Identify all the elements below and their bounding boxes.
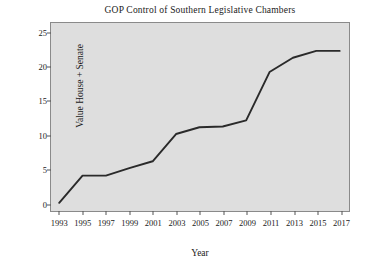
x-axis-label: Year [50, 248, 350, 258]
y-tick-label: 15 [39, 96, 48, 106]
x-tick-mark [318, 211, 319, 215]
plot-area: Value House + Senate 0510152025 19931995… [50, 22, 350, 212]
x-tick-mark [59, 211, 60, 215]
x-tick-mark [200, 211, 201, 215]
x-tick-mark [271, 211, 272, 215]
y-tick-label: 10 [39, 131, 48, 141]
y-tick-label: 20 [39, 62, 48, 72]
x-tick-mark [106, 211, 107, 215]
x-tick-mark [176, 211, 177, 215]
x-tick-mark [223, 211, 224, 215]
x-tick-label: 2005 [192, 218, 209, 228]
x-tick-label: 2003 [168, 218, 185, 228]
x-tick-label: 2011 [263, 218, 280, 228]
x-tick-mark [341, 211, 342, 215]
line-series-path [59, 51, 339, 203]
x-tick-label: 2001 [145, 218, 162, 228]
y-tick-mark [47, 204, 51, 205]
y-tick-label: 25 [39, 28, 48, 38]
y-tick-mark [47, 101, 51, 102]
y-tick-mark [47, 67, 51, 68]
x-tick-label: 1997 [98, 218, 115, 228]
y-tick-mark [47, 170, 51, 171]
y-tick-mark [47, 135, 51, 136]
chart-title: GOP Control of Southern Legislative Cham… [50, 5, 350, 15]
x-tick-label: 2013 [286, 218, 303, 228]
y-axis-label: Value House + Senate [75, 11, 85, 161]
x-tick-label: 1999 [121, 218, 138, 228]
x-tick-label: 1993 [51, 218, 68, 228]
line-series-svg [51, 23, 349, 211]
x-tick-label: 2007 [215, 218, 232, 228]
y-tick-mark [47, 32, 51, 33]
chart-figure: GOP Control of Southern Legislative Cham… [0, 0, 376, 275]
x-tick-label: 2015 [310, 218, 327, 228]
x-tick-mark [153, 211, 154, 215]
x-tick-label: 2017 [333, 218, 350, 228]
x-tick-mark [82, 211, 83, 215]
x-tick-label: 2009 [239, 218, 256, 228]
x-tick-mark [294, 211, 295, 215]
x-tick-label: 1995 [74, 218, 91, 228]
x-tick-mark [129, 211, 130, 215]
x-tick-mark [247, 211, 248, 215]
